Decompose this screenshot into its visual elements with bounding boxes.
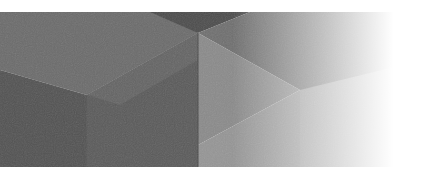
- isometric-pattern: [0, 12, 423, 167]
- geometric-artwork: [0, 12, 423, 167]
- geometric-banner: [0, 0, 423, 172]
